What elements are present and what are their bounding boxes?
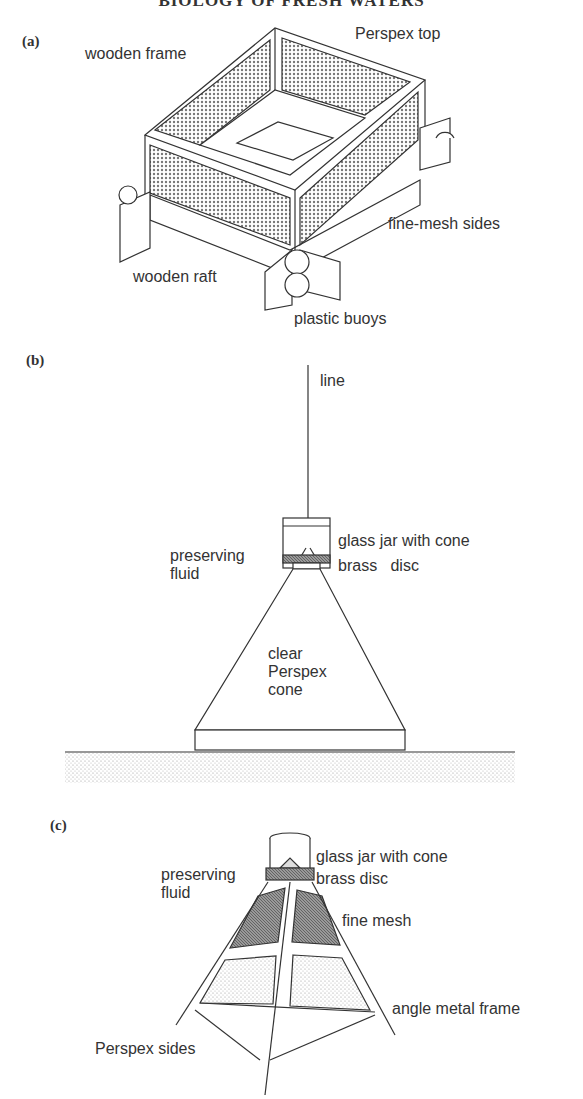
label-clear-perspex-cone-1: clear [268,645,303,663]
label-plastic-buoys: plastic buoys [294,310,387,328]
label-wooden-raft: wooden raft [133,268,217,286]
label-clear-perspex-cone-3: cone [268,681,303,699]
label-glass-jar-c: glass jar with cone [316,848,448,866]
panel-b-trap [65,365,515,783]
panel-a-label: (a) [22,33,40,50]
label-fine-mesh: fine mesh [342,912,411,930]
figure-drawing [0,0,583,1099]
panel-b-label: (b) [26,352,44,369]
label-preserving-fluid-c: preserving [161,866,236,884]
label-perspex-top: Perspex top [355,25,440,43]
label-perspex-sides: Perspex sides [95,1040,196,1058]
label-angle-metal-frame: angle metal frame [392,1000,520,1018]
label-clear-perspex-cone-2: Perspex [268,663,327,681]
label-brass-disc-c: brass disc [316,870,388,888]
label-fine-mesh-sides: fine-mesh sides [388,215,500,233]
panel-c-label: (c) [50,817,67,834]
label-line: line [320,372,345,390]
label-glass-jar: glass jar with cone [338,532,470,550]
label-brass-disc: brass disc [338,557,419,575]
label-preserving-fluid: preserving [170,547,245,565]
label-wooden-frame: wooden frame [85,45,186,63]
label-preserving-fluid-2: fluid [170,565,199,583]
label-preserving-fluid-c-2: fluid [161,884,190,902]
